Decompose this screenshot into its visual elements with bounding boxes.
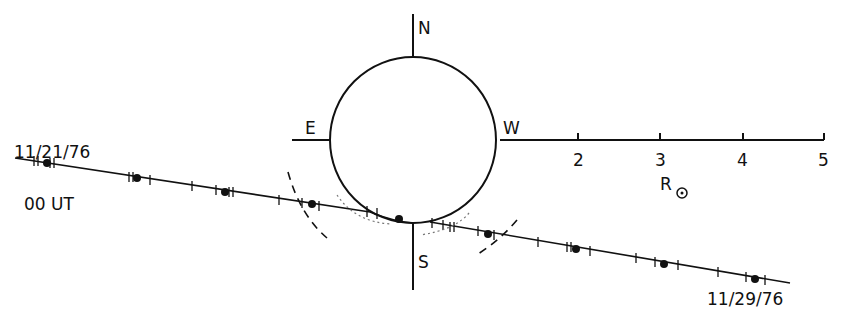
- scale-label-5: 5: [818, 152, 829, 169]
- end-date-label: 11/29/76: [707, 291, 783, 308]
- dotted-arc-left: [337, 195, 391, 224]
- scale-label-3: 3: [655, 152, 666, 169]
- position-dot: [133, 174, 141, 182]
- position-dot: [484, 230, 492, 238]
- scale-label-4: 4: [737, 152, 748, 169]
- scale-label-2: 2: [573, 152, 584, 169]
- position-dot: [660, 260, 668, 268]
- position-dot: [572, 245, 580, 253]
- west-label: W: [503, 120, 520, 137]
- time-label: 00 UT: [24, 196, 74, 213]
- position-dot: [308, 200, 316, 208]
- sun-symbol-icon: [675, 186, 689, 200]
- start-date-label: 11/21/76: [14, 144, 90, 161]
- solar-trajectory-diagram: N S E W 2 3 4 5 R 11/21/76 00 UT 11/29/7…: [0, 0, 845, 313]
- position-dot: [751, 275, 759, 283]
- east-label: E: [305, 120, 316, 137]
- scale-unit-label: R: [660, 176, 672, 193]
- north-label: N: [418, 20, 431, 37]
- south-label: S: [418, 254, 429, 271]
- sun-disk: [330, 57, 496, 223]
- position-dot: [395, 215, 403, 223]
- dashed-arc-right: [478, 220, 517, 254]
- position-dot: [221, 188, 229, 196]
